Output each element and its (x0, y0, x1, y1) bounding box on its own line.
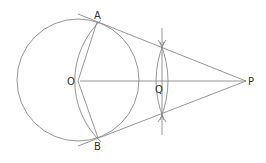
geometry-diagram: A B O P Q (0, 0, 266, 163)
segment-oa (78, 22, 97, 81)
label-q: Q (155, 84, 163, 95)
label-a: A (94, 10, 101, 21)
label-o: O (67, 76, 75, 87)
label-b: B (94, 141, 101, 152)
segment-ob (78, 81, 98, 138)
label-p: P (248, 76, 254, 87)
